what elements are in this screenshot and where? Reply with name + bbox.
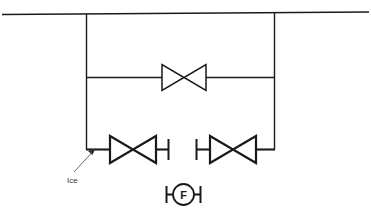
main-header-pipe — [2, 12, 369, 15]
left-branch-valve-gate-valve-icon[interactable] — [110, 136, 156, 163]
ice-annotation-label: Ice — [67, 176, 78, 185]
flow-element-instrument[interactable]: F — [167, 184, 201, 205]
right-branch-valve-gate-valve-icon[interactable] — [210, 136, 256, 163]
bypass-valve-gate-valve-icon[interactable] — [162, 65, 206, 91]
diagram-svg: Ice F — [0, 0, 371, 210]
piping-diagram-canvas: Ice F — [0, 0, 371, 210]
flow-element-tag: F — [180, 189, 187, 201]
ice-annotation-leader — [74, 149, 96, 173]
